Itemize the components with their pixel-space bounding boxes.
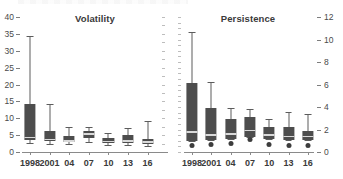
boxplot-whisker-cap-lower (304, 140, 311, 141)
boxplot-whisker-cap-upper (144, 121, 151, 122)
boxplot-outlier-point (305, 143, 310, 148)
boxplot-median-line (302, 136, 313, 138)
boxplot-whisker-cap-upper (304, 114, 311, 115)
boxplot-whisker-cap-lower (144, 146, 151, 147)
boxplot-16 (268, 0, 343, 179)
chart-figure: 0510152025303540 024681012 Volatility Pe… (0, 0, 343, 179)
